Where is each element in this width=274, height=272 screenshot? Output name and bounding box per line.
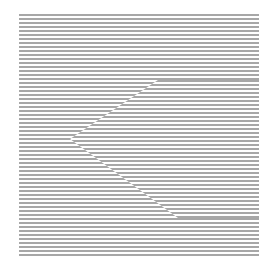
line-grating-figure xyxy=(0,0,274,272)
